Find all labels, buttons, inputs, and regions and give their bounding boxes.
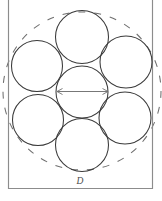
circle-packing-figure: D — [0, 0, 162, 201]
packed-circle-upper-left — [12, 41, 63, 92]
packed-circle-lower-left — [13, 95, 64, 146]
packed-circle-bottom — [56, 119, 109, 172]
diagram-canvas: D — [0, 0, 162, 201]
packed-circle-upper-right — [100, 36, 152, 88]
dimension-label-d: D — [76, 176, 84, 186]
circumscribing-circle — [3, 12, 161, 170]
packed-circle-center — [56, 66, 108, 118]
duct-rectangle-outline — [9, 0, 153, 189]
